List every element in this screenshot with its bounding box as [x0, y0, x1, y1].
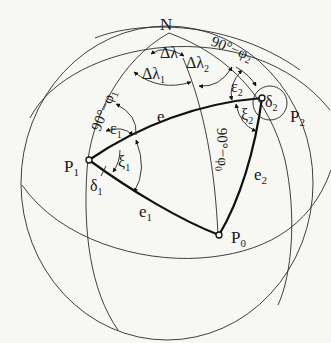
point-p1: [86, 157, 92, 163]
label-colat-0: 90°−φ0: [212, 128, 231, 172]
label-xi2: ξ2: [241, 106, 253, 126]
label-dl2: Δλ2: [186, 54, 209, 74]
label-edge-e2: e2: [254, 165, 267, 186]
spherical-geometry-figure: N P1 P2 P0 e e1 e2 90°−φ1 90°−φ2 90°−φ0 …: [0, 0, 331, 343]
label-dl1: Δλ1: [142, 65, 165, 85]
arc-xi1: [134, 140, 142, 192]
sphere-outline: [21, 26, 313, 340]
label-delta1: δ1: [90, 177, 103, 197]
point-p0: [216, 232, 222, 238]
label-delta2: δ2: [265, 93, 278, 113]
label-p0: P0: [231, 228, 246, 249]
label-p1: P1: [64, 157, 79, 178]
label-edge-e: e: [157, 107, 165, 126]
sphere-diagram: N P1 P2 P0 e e1 e2 90°−φ1 90°−φ2 90°−φ0 …: [0, 0, 331, 343]
label-xi1: ξ1: [118, 153, 130, 173]
label-dl: Δλ: [160, 44, 178, 61]
label-edge-e1: e1: [139, 202, 152, 223]
label-n: N: [160, 15, 172, 34]
label-eps2: ε2: [231, 78, 243, 98]
label-p2: P2: [290, 107, 305, 128]
label-colat-2: 90°−φ2: [208, 33, 255, 66]
upper-circle: [30, 47, 330, 118]
edge-e1: [89, 160, 219, 235]
meridian-p2: [169, 33, 292, 305]
label-eps1: ε1: [110, 120, 122, 140]
